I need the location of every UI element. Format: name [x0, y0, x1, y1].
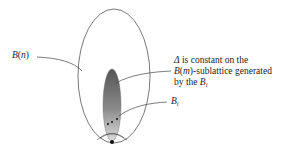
- label-b-i: Bi: [171, 96, 179, 109]
- block-dot: [111, 121, 113, 123]
- leader-line-bi: [119, 102, 167, 116]
- annotation-line-2: B(m)-sublattice generated: [174, 66, 272, 77]
- inner-ellipse-sublattice: [103, 69, 121, 141]
- apex-dot: [110, 140, 114, 144]
- leader-line-delta: [116, 71, 171, 83]
- block-dot: [107, 123, 109, 125]
- annotation-line-3: by the Bi: [174, 77, 272, 90]
- annotation-line-1: Δ is constant on the: [174, 55, 272, 66]
- block-dot: [116, 118, 118, 120]
- leader-line-bn: [37, 57, 82, 71]
- label-b-of-n: B(n): [12, 50, 29, 61]
- annotation-delta-constant: Δ is constant on the B(m)-sublattice gen…: [174, 55, 272, 90]
